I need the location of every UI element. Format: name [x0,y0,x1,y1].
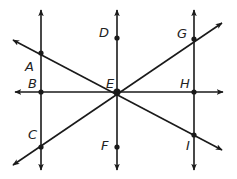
label-H: H [180,77,190,90]
label-C: C [28,128,37,141]
point-I [191,132,196,137]
label-E: E [106,77,114,90]
point-E [113,88,120,95]
label-F: F [101,139,108,152]
label-B: B [28,77,37,90]
label-A: A [25,60,34,73]
point-B [38,89,43,94]
point-G [191,36,196,41]
point-H [191,89,196,94]
label-D: D [99,26,109,39]
point-C [38,144,43,149]
label-G: G [177,27,187,40]
point-D [114,35,119,40]
label-I: I [186,139,190,152]
point-A [38,50,43,55]
point-F [114,144,119,149]
geometry-diagram: ABCDEFGHI [0,0,237,179]
